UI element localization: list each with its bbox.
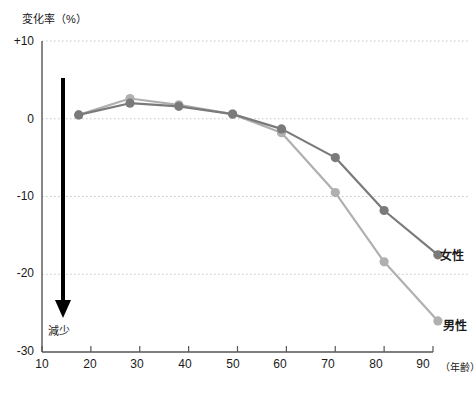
data-point bbox=[228, 110, 237, 119]
x-tick-label-20: 20 bbox=[75, 357, 105, 371]
x-tick-label-40: 40 bbox=[170, 357, 200, 371]
x-tick-label-30: 30 bbox=[122, 357, 152, 371]
data-point bbox=[331, 153, 340, 162]
y-axis-title: 変化率（%） bbox=[22, 10, 87, 26]
y-tick-label-minus20: -20 bbox=[0, 266, 34, 280]
data-point bbox=[433, 316, 442, 325]
chart-container: 変化率（%） +10 0 -10 -20 -30 10 20 30 40 50 … bbox=[0, 0, 476, 394]
decrease-arrow-head bbox=[55, 300, 71, 318]
decrease-arrow-icon bbox=[55, 78, 71, 318]
decrease-arrow-label: 減少 bbox=[48, 322, 70, 338]
y-tick-label-10: +10 bbox=[0, 34, 34, 48]
data-point bbox=[331, 188, 340, 197]
series-line bbox=[79, 103, 438, 255]
x-tick-label-80: 80 bbox=[361, 357, 391, 371]
x-tick-label-70: 70 bbox=[313, 357, 343, 371]
y-tick-label-minus10: -10 bbox=[0, 189, 34, 203]
series-female bbox=[74, 99, 442, 260]
x-tick-label-90: 90 bbox=[408, 357, 438, 371]
data-point bbox=[74, 110, 83, 119]
y-tick-label-0: 0 bbox=[0, 112, 34, 126]
data-point bbox=[380, 206, 389, 215]
data-point bbox=[277, 124, 286, 133]
series-label-male: 男性 bbox=[443, 316, 467, 333]
x-tick-label-60: 60 bbox=[265, 357, 295, 371]
data-point bbox=[380, 257, 389, 266]
data-point bbox=[174, 102, 183, 111]
series-label-female: 女性 bbox=[440, 246, 464, 263]
x-axis-unit-label: （年齢） bbox=[440, 359, 476, 374]
y-tick-label-minus30: -30 bbox=[0, 344, 34, 358]
x-tick-label-10: 10 bbox=[27, 357, 57, 371]
x-tick-label-50: 50 bbox=[218, 357, 248, 371]
data-point bbox=[125, 99, 134, 108]
plot-area bbox=[0, 0, 476, 394]
